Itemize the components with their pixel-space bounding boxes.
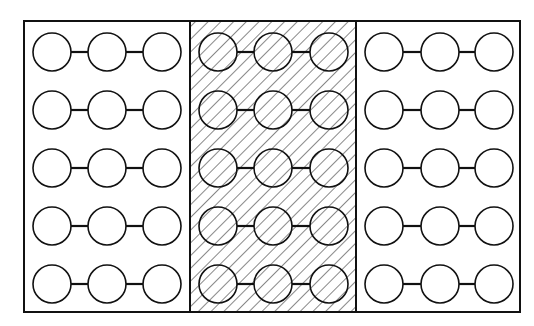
right-panel-chain (365, 91, 513, 129)
atom-circle (365, 149, 403, 187)
atom-circle (143, 149, 181, 187)
atom-circle (143, 265, 181, 303)
atom-circle (365, 265, 403, 303)
atom-circle (33, 149, 71, 187)
atom-circle (475, 33, 513, 71)
atom-circle (475, 91, 513, 129)
left-panel-chain (33, 33, 181, 71)
atom-circle (421, 149, 459, 187)
right-panel-chain (365, 149, 513, 187)
atom-circle (33, 91, 71, 129)
atom-circle (421, 33, 459, 71)
atom-circle (88, 207, 126, 245)
molecule-chain-diagram (0, 0, 534, 326)
atom-circle (143, 33, 181, 71)
atom-circle (365, 91, 403, 129)
atom-circle (88, 33, 126, 71)
left-panel-chain (33, 149, 181, 187)
atom-circle (88, 149, 126, 187)
right-panel-chain (365, 207, 513, 245)
left-panel-chain (33, 265, 181, 303)
atom-circle (143, 91, 181, 129)
middle-panel-hatch (190, 21, 356, 312)
atom-circle (365, 207, 403, 245)
atom-circle (88, 265, 126, 303)
atom-circle (475, 207, 513, 245)
atom-circle (475, 265, 513, 303)
atom-circle (33, 207, 71, 245)
atom-circle (421, 265, 459, 303)
atom-circle (33, 33, 71, 71)
left-panel-chain (33, 207, 181, 245)
atom-circle (143, 207, 181, 245)
left-panel-chain (33, 91, 181, 129)
atom-circle (475, 149, 513, 187)
right-panel-chain (365, 33, 513, 71)
atom-circle (33, 265, 71, 303)
atom-circle (88, 91, 126, 129)
atom-circle (421, 207, 459, 245)
atom-circle (365, 33, 403, 71)
atom-circle (421, 91, 459, 129)
right-panel-chain (365, 265, 513, 303)
